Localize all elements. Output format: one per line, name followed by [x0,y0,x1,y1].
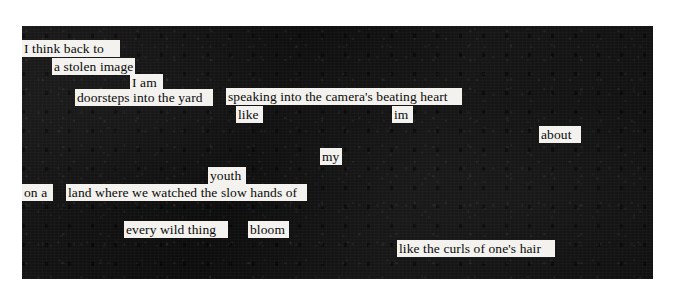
revealed-phrase: like the curls of one's hair [397,240,555,257]
blackout-poem-canvas: I think back toa stolen imageI amdoorste… [0,0,675,291]
revealed-phrase: about [539,126,581,143]
revealed-phrase: speaking into the camera's beating heart [226,88,462,105]
revealed-phrase: on a [22,184,53,201]
revealed-phrase: every wild thing [124,221,228,238]
revealed-phrase: bloom [248,221,289,238]
revealed-phrase: like [236,106,263,123]
revealed-phrase: im [392,106,413,123]
revealed-phrase: I think back to [22,40,120,57]
revealed-phrase: a stolen image [52,58,135,75]
revealed-phrase: youth [208,167,246,184]
revealed-phrase: my [320,148,342,165]
revealed-phrase: land where we watched the slow hands of [66,184,307,201]
revealed-phrase: doorsteps into the yard [75,89,213,106]
